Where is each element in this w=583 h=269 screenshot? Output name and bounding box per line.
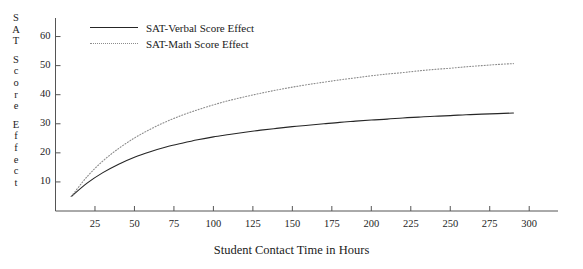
- tick-marks: [56, 37, 530, 211]
- x-tick-label: 225: [393, 218, 429, 229]
- legend-label-verbal: SAT-Verbal Score Effect: [146, 22, 254, 34]
- y-axis-title-letter: t: [6, 177, 26, 189]
- chart-figure: SATScoreEffect 102030405060 255075100125…: [0, 0, 583, 269]
- y-axis-title-letter: c: [6, 165, 26, 177]
- y-axis-title-letter: f: [6, 142, 26, 154]
- y-axis-title-letter: T: [6, 35, 26, 47]
- y-axis-title-letter: S: [6, 12, 26, 24]
- y-tick-label: 10: [29, 175, 51, 186]
- legend-item-verbal: SAT-Verbal Score Effect: [90, 20, 350, 36]
- x-tick-label: 25: [77, 218, 113, 229]
- legend-swatch-solid-line-icon: [90, 23, 138, 33]
- legend-swatch-dotted-line-icon: [90, 39, 138, 49]
- x-tick-label: 175: [314, 218, 350, 229]
- x-tick-label: 150: [274, 218, 310, 229]
- x-axis-title: Student Contact Time in Hours: [0, 243, 583, 258]
- legend-item-math: SAT-Math Score Effect: [90, 36, 350, 52]
- x-tick-label: 125: [235, 218, 271, 229]
- y-axis-title-letter: c: [6, 65, 26, 77]
- y-tick-label: 40: [29, 88, 51, 99]
- chart-legend: SAT-Verbal Score Effect SAT-Math Score E…: [90, 20, 350, 52]
- y-tick-label: 20: [29, 146, 51, 157]
- data-series: [71, 64, 513, 197]
- x-tick-label: 200: [353, 218, 389, 229]
- x-tick-label: 100: [195, 218, 231, 229]
- y-axis-title-letter: A: [6, 24, 26, 36]
- series-line-math: [71, 64, 513, 197]
- y-axis-title-letter: e: [6, 154, 26, 166]
- x-tick-label: 300: [511, 218, 547, 229]
- y-axis-title: SATScoreEffect: [6, 12, 26, 188]
- y-axis-title-letter: o: [6, 77, 26, 89]
- legend-label-math: SAT-Math Score Effect: [146, 38, 249, 50]
- series-line-verbal: [71, 113, 513, 196]
- y-axis-title-letter: r: [6, 89, 26, 101]
- x-tick-label: 50: [116, 218, 152, 229]
- x-tick-label: 250: [432, 218, 468, 229]
- y-tick-label: 30: [29, 117, 51, 128]
- y-axis-title-letter: f: [6, 130, 26, 142]
- y-tick-label: 60: [29, 30, 51, 41]
- y-axis-title-letter: e: [6, 100, 26, 112]
- y-axis-title-letter: E: [6, 119, 26, 131]
- y-tick-label: 50: [29, 59, 51, 70]
- y-axis-title-letter: S: [6, 54, 26, 66]
- y-axis-title-gap: [6, 47, 26, 54]
- y-axis-title-gap: [6, 112, 26, 119]
- x-tick-label: 275: [472, 218, 508, 229]
- x-tick-label: 75: [156, 218, 192, 229]
